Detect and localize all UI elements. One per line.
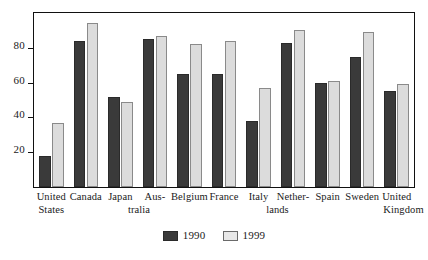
bar-chart-figure: 20406080 UnitedStatesCanadaJapanAus-tral… xyxy=(0,0,428,260)
y-axis-tick-mark xyxy=(28,117,33,118)
bar-1999 xyxy=(121,102,133,187)
bar-1990 xyxy=(74,41,86,187)
bar-1999 xyxy=(225,41,237,187)
x-axis-label-line2: Kingdom xyxy=(370,204,424,217)
y-axis-tick-mark xyxy=(28,48,33,49)
bar-group xyxy=(138,13,173,187)
y-axis-tick-mark xyxy=(28,83,33,84)
bar-1999 xyxy=(328,81,340,187)
bar-group xyxy=(69,13,104,187)
bar-1999 xyxy=(294,30,306,187)
x-axis-label: UnitedKingdom xyxy=(370,191,424,216)
bar-1990 xyxy=(315,83,327,187)
bar-group xyxy=(207,13,242,187)
bar-1999 xyxy=(190,44,202,187)
x-axis-category-labels: UnitedStatesCanadaJapanAus-traliaBelgium… xyxy=(34,191,414,225)
y-axis-tick-label: 20 xyxy=(14,144,25,155)
bar-1990 xyxy=(246,121,258,187)
y-axis-tick-label: 60 xyxy=(14,75,25,86)
bar-1999 xyxy=(156,36,168,187)
bar-group xyxy=(241,13,276,187)
bar-group xyxy=(379,13,414,187)
legend-swatch-icon xyxy=(223,231,238,241)
x-axis-label-line1: United xyxy=(382,191,411,202)
bar-1999 xyxy=(397,84,409,187)
y-axis-tick-mark xyxy=(28,152,33,153)
bar-group xyxy=(34,13,69,187)
bar-1990 xyxy=(177,74,189,187)
y-axis-tick-label: 80 xyxy=(14,40,25,51)
bar-group xyxy=(310,13,345,187)
bars-layer xyxy=(34,13,414,187)
legend-swatch-icon xyxy=(163,231,178,241)
bar-1999 xyxy=(52,123,64,187)
bar-1990 xyxy=(212,74,224,187)
chart-legend: 19901999 xyxy=(0,230,428,241)
legend-label: 1999 xyxy=(243,230,266,241)
bar-group xyxy=(172,13,207,187)
bar-group xyxy=(103,13,138,187)
bar-1990 xyxy=(39,156,51,187)
bar-group xyxy=(276,13,311,187)
legend-label: 1990 xyxy=(183,230,206,241)
y-axis: 20406080 xyxy=(0,0,33,200)
y-axis-tick-label: 40 xyxy=(14,109,25,120)
bar-1990 xyxy=(350,57,362,188)
bar-1999 xyxy=(87,23,99,187)
bar-group xyxy=(345,13,380,187)
legend-item-1990[interactable]: 1990 xyxy=(163,230,206,241)
x-axis-label-line2: States xyxy=(24,204,78,217)
bar-1999 xyxy=(363,32,375,187)
bar-1999 xyxy=(259,88,271,187)
legend-item-1999[interactable]: 1999 xyxy=(223,230,266,241)
bar-1990 xyxy=(281,43,293,187)
x-axis-label-line2: tralia xyxy=(128,204,182,217)
bar-1990 xyxy=(108,97,120,187)
x-axis-label-line2: lands xyxy=(266,204,320,217)
bar-1990 xyxy=(143,39,155,187)
bar-1990 xyxy=(384,91,396,187)
